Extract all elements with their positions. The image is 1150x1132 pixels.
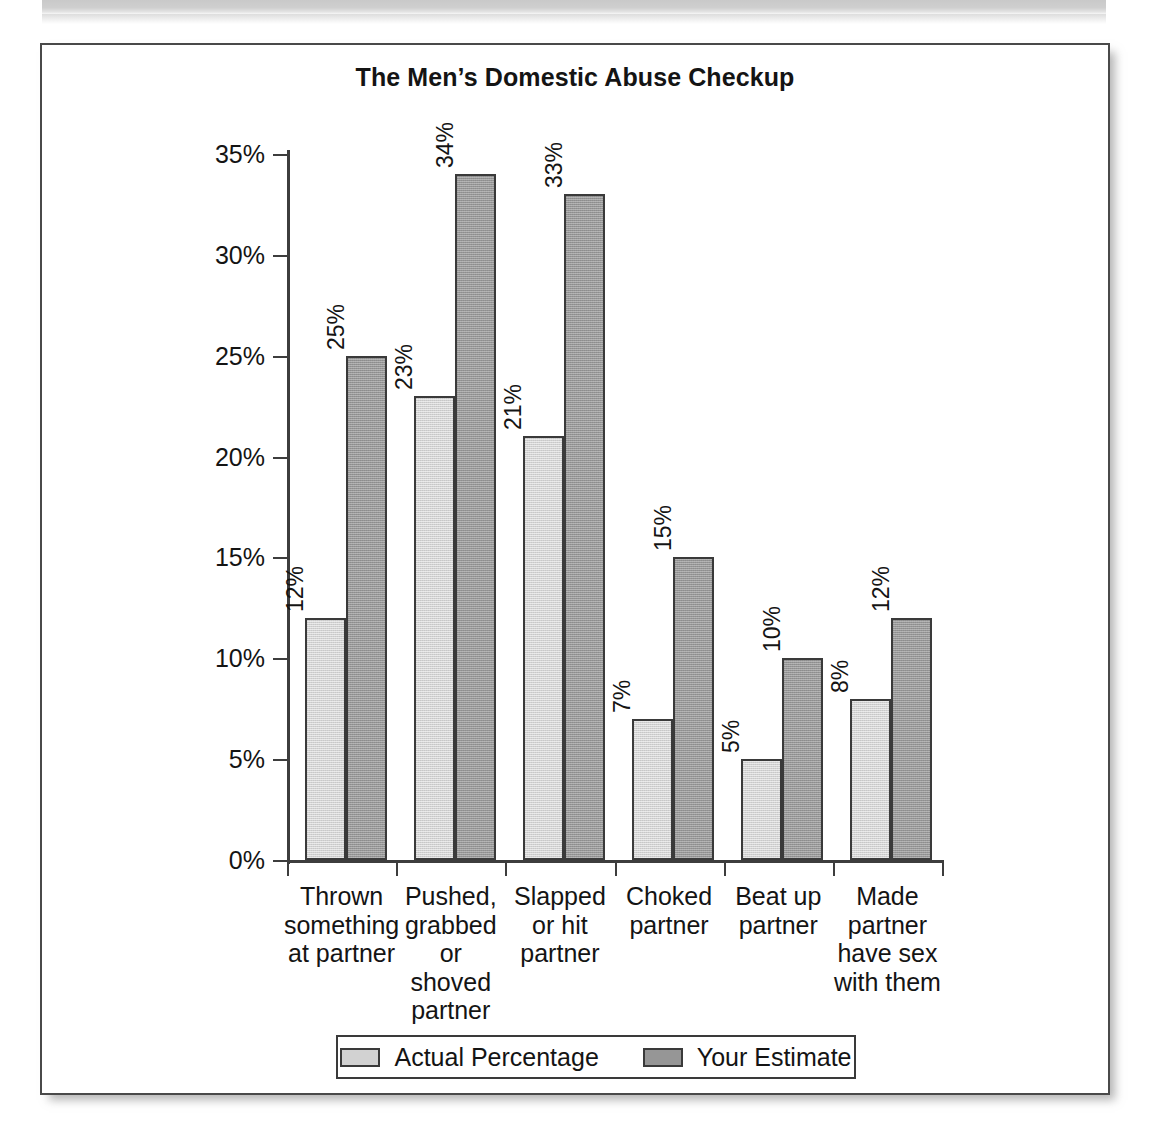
legend-item: Your Estimate	[643, 1043, 852, 1072]
y-axis-tick	[273, 154, 287, 156]
bar-actual	[741, 759, 782, 860]
y-axis-tick-label: 20%	[215, 442, 265, 471]
chart-legend: Actual PercentageYour Estimate	[336, 1035, 856, 1079]
bar-value-label: 34%	[434, 122, 457, 174]
legend-label: Actual Percentage	[394, 1043, 598, 1072]
category-label-line: partner	[817, 911, 957, 940]
category-label-line: Made	[817, 882, 957, 911]
legend-label: Your Estimate	[697, 1043, 852, 1072]
y-axis-tick-label: 5%	[229, 745, 265, 774]
category-label-line: with them	[817, 968, 957, 997]
bar-estimate	[346, 356, 387, 860]
bar-actual	[850, 699, 891, 860]
y-axis-tick-label: 15%	[215, 543, 265, 572]
y-axis-tick	[273, 255, 287, 257]
x-axis-tick	[724, 860, 726, 876]
legend-swatch-estimate	[643, 1048, 683, 1067]
bar-actual	[632, 719, 673, 860]
y-axis-tick-label: 25%	[215, 341, 265, 370]
y-axis-tick-label: 30%	[215, 240, 265, 269]
plot-area: 0%5%10%15%20%25%30%35% 12%25%23%34%21%33…	[287, 154, 942, 860]
bar-actual	[305, 618, 346, 860]
category-label-line: shoved	[381, 968, 521, 997]
x-axis-tick	[287, 860, 289, 876]
bar-value-label: 33%	[543, 142, 566, 194]
y-axis-tick	[273, 557, 287, 559]
x-axis-tick	[942, 860, 944, 876]
y-axis-line	[287, 150, 290, 864]
bar-value-label: 8%	[829, 659, 852, 698]
bar-estimate	[891, 618, 932, 860]
bar-value-label: 10%	[761, 606, 784, 658]
page-header-band	[42, 0, 1106, 14]
legend-item: Actual Percentage	[340, 1043, 598, 1072]
bar-value-label: 12%	[284, 566, 307, 618]
x-axis-tick	[833, 860, 835, 876]
bar-value-label: 12%	[870, 566, 893, 618]
y-axis-tick	[273, 759, 287, 761]
y-axis-tick-label: 10%	[215, 644, 265, 673]
bar-value-label: 5%	[720, 720, 743, 759]
x-axis-tick	[615, 860, 617, 876]
bar-actual	[523, 436, 564, 860]
bar-estimate	[673, 557, 714, 860]
bar-value-label: 25%	[325, 304, 348, 356]
chart-frame: The Men’s Domestic Abuse Checkup 0%5%10%…	[40, 43, 1110, 1095]
bar-estimate	[455, 174, 496, 860]
category-label-line: partner	[490, 939, 630, 968]
bar-estimate	[782, 658, 823, 860]
bar-value-label: 23%	[393, 344, 416, 396]
bar-actual	[414, 396, 455, 860]
chart-title: The Men’s Domestic Abuse Checkup	[42, 63, 1108, 92]
x-axis-tick	[396, 860, 398, 876]
y-axis-tick	[273, 457, 287, 459]
y-axis-tick	[273, 658, 287, 660]
bar-value-label: 7%	[611, 680, 634, 719]
category-label: Madepartnerhave sexwith them	[817, 882, 957, 996]
bar-estimate	[564, 194, 605, 860]
y-axis-tick	[273, 356, 287, 358]
category-label-line: have sex	[817, 939, 957, 968]
y-axis-tick-label: 35%	[215, 140, 265, 169]
x-axis-tick	[505, 860, 507, 876]
category-label-line: partner	[381, 996, 521, 1025]
y-axis-tick	[273, 860, 287, 862]
bar-value-label: 15%	[652, 505, 675, 557]
legend-swatch-actual	[340, 1048, 380, 1067]
y-axis-tick-label: 0%	[229, 846, 265, 875]
bar-value-label: 21%	[502, 384, 525, 436]
